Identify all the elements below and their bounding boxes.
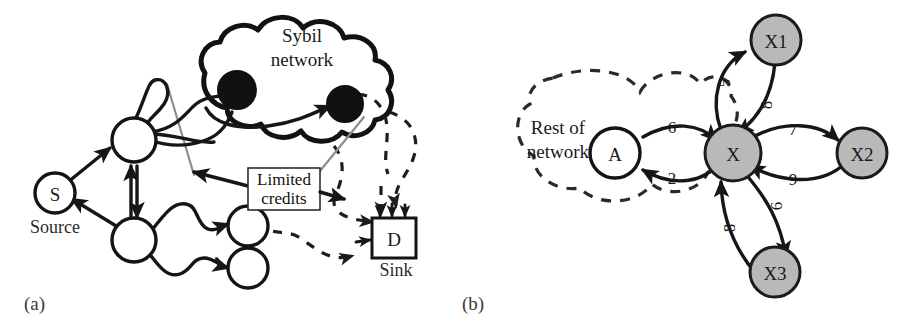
node-x3-label: X3 [763, 263, 786, 284]
edge-weight-x-a: 2 [668, 169, 677, 188]
panel-a: Sybil network [24, 17, 416, 315]
rest-of-network-line-2: network [527, 141, 590, 162]
edge-a-to-x [643, 126, 716, 140]
node-x1-label: X1 [764, 31, 787, 52]
edge-weight-a-x: 6 [668, 118, 677, 137]
edge-n2-to-n4 [148, 252, 228, 275]
panel-b-label: (b) [462, 293, 484, 315]
node-x1: X1 [751, 15, 801, 65]
edge-n1-to-sybil1 [152, 91, 229, 132]
limited-credits-pointer-right [320, 192, 344, 199]
node-s-caption: Source [30, 217, 80, 237]
dashed-route-mid [334, 146, 372, 222]
sybil-node-1 [218, 71, 256, 109]
node-d-sink: D Sink [356, 204, 416, 280]
edge-n2-to-n3 [152, 204, 228, 230]
panel-b: Rest of network 6 2 5 8 [462, 15, 887, 315]
edge-s-to-n1 [68, 148, 110, 182]
node-n3 [228, 206, 268, 246]
node-d-caption: Sink [379, 260, 412, 280]
node-s-label: S [50, 184, 61, 205]
node-n1 [112, 118, 156, 162]
sybil-node-2 [327, 86, 363, 122]
sybil-cloud-line-1: Sybil [282, 25, 322, 46]
limited-credits-annotation: Limited credits [248, 168, 344, 210]
node-x-label: X [726, 144, 740, 165]
rest-of-network-line-1: Rest of [531, 117, 586, 138]
panel-a-label: (a) [24, 293, 45, 315]
edge-weight-x-x2: 7 [789, 120, 798, 139]
node-x3: X3 [750, 247, 800, 297]
node-d-label: D [387, 229, 401, 250]
node-a-label: A [608, 144, 622, 165]
edge-weight-x-x1: 5 [715, 79, 734, 88]
node-n4 [228, 248, 268, 288]
limited-credits-line-1: Limited [257, 170, 311, 189]
edge-x-to-x1 [716, 52, 745, 130]
edge-x-to-x3 [744, 172, 786, 256]
edge-weight-x3-x: 8 [720, 224, 739, 233]
cut-line-left [167, 84, 194, 175]
node-a: A [590, 128, 640, 178]
edge-weight-x-x3: 6 [767, 202, 786, 211]
limited-credits-line-2: credits [261, 189, 306, 208]
sybil-cloud-line-2: network [271, 49, 334, 70]
edge-weight-x2-x: 9 [789, 170, 798, 189]
node-x2: X2 [837, 128, 887, 178]
node-s: S Source [30, 173, 80, 237]
edge-x1-to-x [738, 62, 775, 133]
edge-weight-x1-x: 8 [757, 101, 776, 110]
node-x2-label: X2 [850, 144, 873, 165]
dashed-route-lower [258, 222, 352, 258]
node-x: X [705, 125, 761, 181]
arrow-into-d-left [356, 240, 370, 242]
dashed-route-right [389, 112, 416, 206]
figure-root: Sybil network [0, 0, 906, 332]
node-n2 [112, 218, 156, 262]
edge-credit-arrow-left [194, 172, 248, 186]
